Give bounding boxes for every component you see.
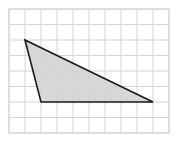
grid-triangle-figure [0,0,177,144]
